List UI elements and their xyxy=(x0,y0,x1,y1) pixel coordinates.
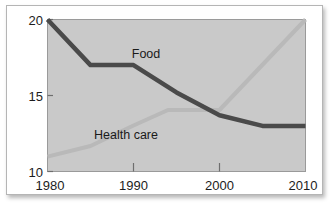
series-label-food: Food xyxy=(132,47,161,61)
figure-card: 20 15 10 1980 1990 2000 2010 Food Health… xyxy=(6,5,323,195)
x-axis-label-2000: 2000 xyxy=(205,178,234,193)
line-chart: 20 15 10 1980 1990 2000 2010 Food Health… xyxy=(7,6,324,196)
x-axis-label-1990: 1990 xyxy=(119,178,148,193)
y-axis-label-15: 15 xyxy=(29,89,43,104)
series-label-health-care: Health care xyxy=(94,128,158,142)
y-axis-label-20: 20 xyxy=(29,13,43,28)
x-axis-label-2010: 2010 xyxy=(289,178,318,193)
x-axis-label-1980: 1980 xyxy=(36,178,65,193)
chart-svg: 20 15 10 1980 1990 2000 2010 Food Health… xyxy=(7,6,324,196)
